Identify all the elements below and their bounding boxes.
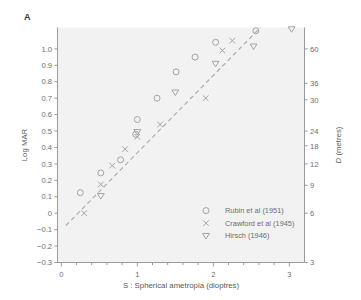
x-tick-label: 0 bbox=[59, 270, 63, 279]
svg-text:D (metres): D (metres) bbox=[334, 126, 343, 163]
y2-axis-title: D (metres) bbox=[334, 126, 343, 163]
y2-tick-label: 6 bbox=[310, 209, 314, 218]
y-tick-label: 0.2 bbox=[41, 176, 52, 185]
legend-label: Crawford et al (1945) bbox=[225, 219, 294, 228]
y-tick-label: 0.5 bbox=[41, 127, 52, 136]
y-tick-label: 0 bbox=[48, 209, 52, 218]
y-tick-label: 1.0 bbox=[41, 45, 52, 54]
legend-label: Hirsch (1946) bbox=[225, 231, 269, 240]
y-axis-title: Log MAR bbox=[20, 128, 29, 161]
y-tick-label: 0.3 bbox=[41, 160, 52, 169]
y2-tick-label: 36 bbox=[310, 79, 318, 88]
y-tick-label: 0.1 bbox=[41, 192, 52, 201]
y-tick-label: −0.3 bbox=[37, 258, 52, 267]
y2-tick-label: 60 bbox=[310, 45, 318, 54]
y2-tick-label: 24 bbox=[310, 127, 318, 136]
x-tick-label: 2 bbox=[211, 270, 215, 279]
y2-tick-label: 3 bbox=[310, 258, 314, 267]
x-axis-title: S : Spherical ametropia (dioptres) bbox=[123, 281, 240, 290]
y-tick-label: −0.1 bbox=[37, 225, 52, 234]
y2-tick-label: 18 bbox=[310, 142, 318, 151]
x-tick-label: 1 bbox=[135, 270, 139, 279]
y-tick-label: 0.7 bbox=[41, 94, 52, 103]
y-tick-label: 0.6 bbox=[41, 110, 52, 119]
scatter-plot: −0.3−0.2−0.100.10.20.30.40.50.60.70.80.9… bbox=[0, 0, 361, 300]
y-tick-label: 0.9 bbox=[41, 61, 52, 70]
y2-tick-label: 12 bbox=[310, 160, 318, 169]
legend-label: Rubin et al (1951) bbox=[225, 206, 284, 215]
y-tick-label: −0.2 bbox=[37, 242, 52, 251]
y-tick-label: 0.8 bbox=[41, 77, 52, 86]
y2-tick-label: 9 bbox=[310, 181, 314, 190]
y2-tick-label: 30 bbox=[310, 96, 318, 105]
figure-panel: A −0.3−0.2−0.100.10.20.30.40.50.60.70.80… bbox=[0, 0, 361, 300]
x-tick-label: 3 bbox=[287, 270, 291, 279]
y-tick-label: 0.4 bbox=[41, 143, 52, 152]
